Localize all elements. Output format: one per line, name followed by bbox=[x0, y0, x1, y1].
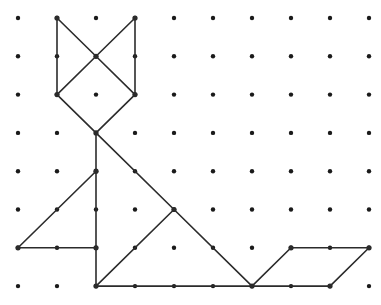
grid-dot-r5-c0[interactable] bbox=[16, 207, 20, 211]
figure-vertex-r6-c2[interactable] bbox=[93, 245, 98, 250]
grid-dot-r3-c9[interactable] bbox=[367, 131, 371, 135]
grid-dot-r4-c6[interactable] bbox=[250, 169, 254, 173]
grid-dot-r2-c8[interactable] bbox=[328, 92, 332, 96]
grid-dot-r3-c8[interactable] bbox=[328, 131, 332, 135]
grid-dot-r5-c8[interactable] bbox=[328, 207, 332, 211]
grid-dot-r1-c5[interactable] bbox=[211, 54, 215, 58]
grid-dot-r1-c0[interactable] bbox=[16, 54, 20, 58]
grid-dot-r2-c0[interactable] bbox=[16, 92, 20, 96]
figure-vertex-r7-c6[interactable] bbox=[249, 284, 254, 289]
grid-dot-r4-c7[interactable] bbox=[289, 169, 293, 173]
grid-dot-r1-c6[interactable] bbox=[250, 54, 254, 58]
figure-vertex-r6-c7[interactable] bbox=[288, 245, 293, 250]
grid-dot-r6-c6[interactable] bbox=[250, 246, 254, 250]
grid-dot-r6-c4[interactable] bbox=[172, 246, 176, 250]
figure-vertex-r5-c4[interactable] bbox=[171, 207, 176, 212]
grid-dot-r5-c7[interactable] bbox=[289, 207, 293, 211]
figure-vertex-r6-c0[interactable] bbox=[15, 245, 20, 250]
grid-dot-r2-c4[interactable] bbox=[172, 92, 176, 96]
grid-dot-r3-c5[interactable] bbox=[211, 131, 215, 135]
grid-dot-r0-c9[interactable] bbox=[367, 16, 371, 20]
grid-dot-r5-c9[interactable] bbox=[367, 207, 371, 211]
grid-dot-r1-c8[interactable] bbox=[328, 54, 332, 58]
figure-vertex-r4-c2[interactable] bbox=[93, 169, 98, 174]
geoboard-canvas bbox=[0, 0, 381, 305]
grid-dot-r0-c8[interactable] bbox=[328, 16, 332, 20]
grid-dot-r5-c6[interactable] bbox=[250, 207, 254, 211]
figure-vertex-r6-c9[interactable] bbox=[366, 245, 371, 250]
grid-dot-r4-c1[interactable] bbox=[55, 169, 59, 173]
grid-dot-r2-c2[interactable] bbox=[94, 92, 98, 96]
grid-dot-r3-c1[interactable] bbox=[55, 131, 59, 135]
grid-dot-r7-c0[interactable] bbox=[16, 284, 20, 288]
grid-dot-r0-c0[interactable] bbox=[16, 16, 20, 20]
grid-dot-r3-c7[interactable] bbox=[289, 131, 293, 135]
grid-dot-r3-c3[interactable] bbox=[133, 131, 137, 135]
figure-vertex-r2-c1[interactable] bbox=[54, 92, 59, 97]
grid-dot-r0-c4[interactable] bbox=[172, 16, 176, 20]
grid-dot-r2-c5[interactable] bbox=[211, 92, 215, 96]
grid-dot-r3-c4[interactable] bbox=[172, 131, 176, 135]
grid-dot-r3-c6[interactable] bbox=[250, 131, 254, 135]
figure-vertex-r7-c8[interactable] bbox=[327, 284, 332, 289]
grid-dot-r1-c7[interactable] bbox=[289, 54, 293, 58]
grid-dot-r3-c0[interactable] bbox=[16, 131, 20, 135]
grid-dot-r0-c6[interactable] bbox=[250, 16, 254, 20]
grid-dot-r4-c9[interactable] bbox=[367, 169, 371, 173]
figure-vertex-r0-c3[interactable] bbox=[132, 15, 137, 20]
grid-dot-r1-c9[interactable] bbox=[367, 54, 371, 58]
grid-dot-r2-c6[interactable] bbox=[250, 92, 254, 96]
grid-dot-r5-c3[interactable] bbox=[133, 207, 137, 211]
grid-dot-r1-c4[interactable] bbox=[172, 54, 176, 58]
grid-dot-r5-c5[interactable] bbox=[211, 207, 215, 211]
grid-dot-r7-c1[interactable] bbox=[55, 284, 59, 288]
grid-dot-r4-c0[interactable] bbox=[16, 169, 20, 173]
grid-dot-r2-c9[interactable] bbox=[367, 92, 371, 96]
grid-dot-r4-c5[interactable] bbox=[211, 169, 215, 173]
figure-vertex-r0-c1[interactable] bbox=[54, 15, 59, 20]
grid-dot-r0-c2[interactable] bbox=[94, 16, 98, 20]
grid-dot-r0-c7[interactable] bbox=[289, 16, 293, 20]
figure-vertex-r2-c3[interactable] bbox=[132, 92, 137, 97]
figure-vertex-r1-c2[interactable] bbox=[93, 54, 98, 59]
grid-dot-r4-c8[interactable] bbox=[328, 169, 332, 173]
grid-dot-r0-c5[interactable] bbox=[211, 16, 215, 20]
grid-dot-r4-c4[interactable] bbox=[172, 169, 176, 173]
grid-dot-r2-c7[interactable] bbox=[289, 92, 293, 96]
figure-vertex-r3-c2[interactable] bbox=[93, 130, 98, 135]
grid-dot-r7-c9[interactable] bbox=[367, 284, 371, 288]
figure-vertex-r7-c2[interactable] bbox=[93, 284, 98, 289]
